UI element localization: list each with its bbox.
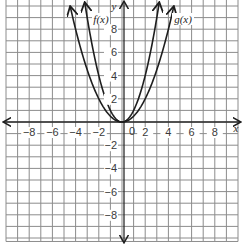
y-tick-label: −2 bbox=[104, 139, 117, 151]
x-tick-label: −4 bbox=[69, 126, 82, 138]
y-tick-label: 2 bbox=[111, 93, 117, 105]
x-tick-label: 4 bbox=[165, 126, 171, 138]
y-tick-label: −4 bbox=[104, 162, 117, 174]
x-axis-label: x bbox=[233, 122, 239, 134]
y-tick-label: −8 bbox=[104, 209, 117, 221]
coordinate-plane: −8−6−4−224688642−2−4−6−80yxf(x)g(x) bbox=[0, 0, 242, 249]
y-tick-label: 6 bbox=[111, 46, 117, 58]
origin-label: 0 bbox=[129, 125, 135, 137]
y-tick-label: 4 bbox=[111, 70, 117, 82]
x-tick-label: −8 bbox=[23, 126, 36, 138]
y-tick-label: 8 bbox=[111, 23, 117, 35]
g-of-x-label: g(x) bbox=[174, 13, 192, 26]
x-tick-label: 2 bbox=[142, 126, 148, 138]
f-of-x-label: f(x) bbox=[93, 13, 109, 26]
x-tick-label: −6 bbox=[46, 126, 59, 138]
x-tick-label: −2 bbox=[93, 126, 106, 138]
grid bbox=[6, 0, 238, 241]
x-tick-label: 8 bbox=[212, 126, 218, 138]
y-tick-label: −6 bbox=[104, 186, 117, 198]
x-tick-label: 6 bbox=[189, 126, 195, 138]
y-axis-label: y bbox=[111, 0, 117, 12]
